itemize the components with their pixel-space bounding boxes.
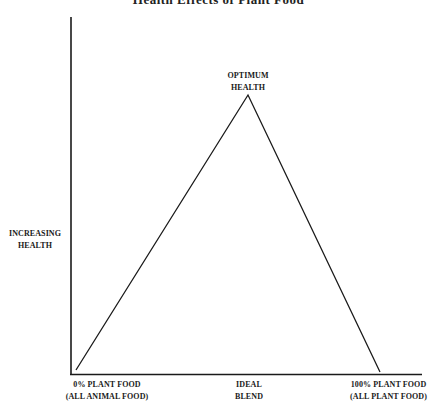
x-label-middle-line1: IDEAL (224, 379, 274, 391)
y-axis-label-line1: INCREASING (4, 228, 66, 240)
peak-label-line2: HEALTH (223, 82, 273, 94)
peak-label: OPTIMUM HEALTH (223, 70, 273, 94)
chart-plot-area (0, 0, 437, 414)
y-axis-label: INCREASING HEALTH (4, 228, 66, 252)
x-label-left-line2: (ALL ANIMAL FOOD) (62, 391, 152, 403)
x-label-left: 0% PLANT FOOD (ALL ANIMAL FOOD) (62, 379, 152, 403)
y-axis-label-line2: HEALTH (4, 240, 66, 252)
x-label-middle: IDEAL BLEND (224, 379, 274, 403)
x-label-middle-line2: BLEND (224, 391, 274, 403)
x-label-left-line1: 0% PLANT FOOD (62, 379, 152, 391)
x-label-right: 100% PLANT FOOD (ALL PLANT FOOD) (340, 379, 437, 403)
x-label-right-line1: 100% PLANT FOOD (340, 379, 437, 391)
x-label-right-line2: (ALL PLANT FOOD) (340, 391, 437, 403)
peak-label-line1: OPTIMUM (223, 70, 273, 82)
health-curve (76, 95, 380, 372)
